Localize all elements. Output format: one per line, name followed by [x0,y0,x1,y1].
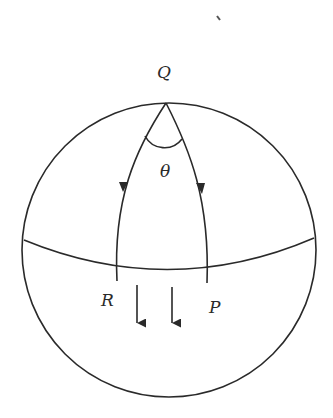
label-theta: θ [160,161,170,181]
label-q: Q [157,62,171,82]
stray-mark [217,16,220,20]
equator-line [24,238,314,270]
label-r: R [100,290,114,310]
meridian-left [117,103,166,281]
meridian-right [166,103,207,283]
label-p: P [208,297,221,317]
angle-arc [145,136,182,148]
sphere-diagram: Q θ R P [0,0,333,418]
